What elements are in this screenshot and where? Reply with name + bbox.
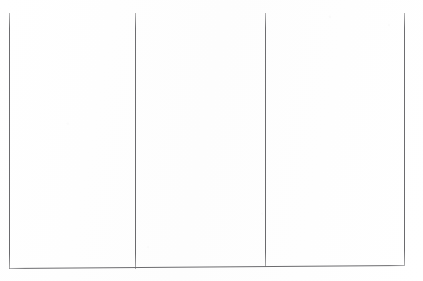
scanned-page (0, 0, 423, 281)
table-column-cell-1[interactable] (10, 14, 134, 267)
rule-divider-two (265, 13, 266, 267)
rule-right-border (404, 13, 405, 265)
rule-divider-one (135, 13, 136, 269)
table-column-cell-3[interactable] (266, 14, 403, 265)
rule-left-border (9, 13, 10, 269)
table-column-cell-2[interactable] (136, 14, 264, 267)
